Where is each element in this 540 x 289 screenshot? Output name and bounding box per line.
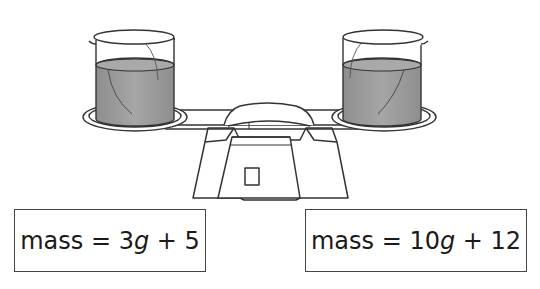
scale-window [245,168,259,185]
eq-left-var: g [134,227,149,255]
scale-base [193,128,348,200]
eq-left-coef: 3 [119,227,134,255]
eq-right-prefix: mass = [311,227,409,255]
left-beaker [89,30,174,126]
eq-left-prefix: mass = [20,227,118,255]
right-beaker [343,30,428,126]
eq-right-coef: 10 [409,227,440,255]
eq-right-suffix: + 12 [455,227,521,255]
left-mass-equation: mass = 3g + 5 [14,209,206,272]
eq-right-var: g [440,227,455,255]
eq-left-suffix: + 5 [149,227,200,255]
right-mass-equation: mass = 10g + 12 [305,209,527,272]
